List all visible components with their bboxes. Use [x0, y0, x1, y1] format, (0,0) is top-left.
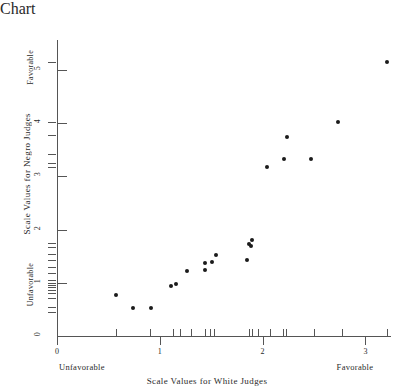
x-axis-title: Scale Values for White Judges	[0, 376, 414, 386]
y-rug-tick	[48, 135, 56, 136]
y-tick-label-0: 0	[34, 332, 42, 336]
x-rug-tick	[214, 329, 215, 337]
data-point	[265, 165, 269, 169]
x-tick-3	[365, 337, 366, 345]
x-rug-tick	[205, 329, 206, 337]
y-rug-tick	[48, 285, 56, 286]
x-rug-tick	[150, 329, 151, 337]
x-rug-tick	[342, 329, 343, 337]
y-rug-tick	[48, 260, 56, 261]
data-point	[169, 284, 173, 288]
y-rug-tick	[48, 290, 56, 291]
y-rug-tick	[48, 307, 56, 308]
x-rug-tick	[116, 329, 117, 337]
x-axis-endpoint-favorable: Favorable	[337, 362, 374, 372]
y-tick-label-1: 1	[34, 279, 42, 283]
data-point	[114, 293, 118, 297]
data-point	[249, 244, 253, 248]
x-tick-1	[160, 337, 161, 345]
data-point	[245, 258, 249, 262]
y-tick-1	[58, 283, 67, 284]
x-rug-tick	[252, 329, 253, 337]
y-rug-tick	[48, 280, 56, 281]
x-rug-tick	[173, 329, 174, 337]
x-rug-tick	[258, 329, 259, 337]
data-point	[250, 238, 254, 242]
y-tick-4	[58, 123, 67, 124]
data-point	[385, 60, 389, 64]
y-axis-title: Scale Values for Negro Judges	[22, 113, 32, 234]
x-rug-tick	[270, 329, 271, 337]
y-tick-label-5: 5	[34, 66, 42, 70]
y-tick-2	[58, 230, 67, 231]
y-tick-label-2: 2	[34, 226, 42, 230]
y-rug-tick	[48, 298, 56, 299]
y-rug-tick	[48, 312, 56, 313]
x-rug-tick	[210, 329, 211, 337]
y-rug-tick	[48, 154, 56, 155]
data-point	[149, 306, 153, 310]
x-rug-tick	[314, 329, 315, 337]
y-axis-line	[57, 40, 58, 337]
data-point	[203, 261, 207, 265]
y-rug-tick	[48, 167, 56, 168]
data-point	[185, 269, 189, 273]
data-point	[282, 157, 286, 161]
y-rug-tick	[48, 287, 56, 288]
data-point	[203, 268, 207, 272]
data-point	[336, 120, 340, 124]
y-rug-tick	[48, 267, 56, 268]
x-rug-tick	[191, 329, 192, 337]
x-tick-label-0: 0	[55, 347, 59, 356]
data-point	[210, 260, 214, 264]
data-point	[214, 253, 218, 257]
x-tick-0	[57, 337, 58, 345]
y-rug-tick	[48, 62, 56, 63]
y-rug-tick	[48, 273, 56, 274]
y-axis-endpoint-favorable: Favorable	[26, 50, 35, 85]
x-tick-label-2: 2	[261, 347, 265, 356]
x-axis-endpoint-unfavorable: Unfavorable	[59, 362, 105, 372]
x-tick-label-3: 3	[363, 347, 367, 356]
y-rug-tick	[48, 243, 56, 244]
y-rug-tick	[48, 293, 56, 294]
x-tick-label-1: 1	[158, 347, 162, 356]
y-tick-3	[58, 176, 67, 177]
y-rug-tick	[48, 122, 56, 123]
y-axis-endpoint-unfavorable: Unfavorable	[26, 263, 35, 306]
data-point	[131, 306, 135, 310]
y-rug-tick	[48, 247, 56, 248]
y-rug-tick	[48, 254, 56, 255]
data-point	[174, 282, 178, 286]
scatter-plot-figure: 012345 0123 Unfavorable Favorable Unfavo…	[0, 18, 414, 390]
y-tick-label-3: 3	[34, 172, 42, 176]
y-tick-label-4: 4	[34, 119, 42, 123]
x-rug-tick	[283, 329, 284, 337]
y-rug-tick	[48, 283, 56, 284]
y-tick-0	[58, 336, 67, 337]
x-tick-2	[263, 337, 264, 345]
data-point	[285, 135, 289, 139]
x-rug-tick	[249, 329, 250, 337]
y-tick-5	[58, 70, 67, 71]
x-rug-tick	[286, 329, 287, 337]
data-point	[309, 157, 313, 161]
x-rug-tick	[387, 329, 388, 337]
x-rug-tick	[180, 329, 181, 337]
y-rug-tick	[48, 163, 56, 164]
